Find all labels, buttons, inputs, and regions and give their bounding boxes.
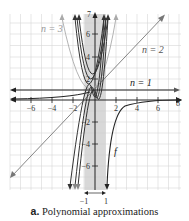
svg-text:7: 7 bbox=[87, 10, 91, 19]
label-n1: n = 1 bbox=[130, 77, 152, 88]
n3-arrow-right-icon bbox=[114, 14, 119, 20]
figure-caption: a. Polynomial approximations bbox=[0, 205, 189, 217]
svg-text:−4: −4 bbox=[48, 104, 57, 113]
caption-letter: a. bbox=[31, 205, 40, 217]
n3-arrow-left-icon bbox=[60, 14, 65, 20]
svg-text:4: 4 bbox=[135, 104, 139, 113]
svg-text:4: 4 bbox=[86, 53, 90, 62]
label-n2: n = 2 bbox=[142, 44, 164, 55]
svg-text:6: 6 bbox=[86, 30, 90, 39]
label-f: f bbox=[114, 146, 118, 157]
svg-text:6: 6 bbox=[156, 104, 160, 113]
svg-text:−6: −6 bbox=[81, 162, 90, 171]
caption-text: Polynomial approximations bbox=[42, 206, 158, 217]
svg-text:−6: −6 bbox=[27, 104, 36, 113]
svg-text:2: 2 bbox=[114, 104, 118, 113]
interval-indicator: −1 1 bbox=[80, 191, 108, 206]
label-n3: n = 3 bbox=[41, 23, 63, 34]
chart-figure: −6 −4 −2 2 4 6 8 2 4 6 7 −2 −4 −6 bbox=[0, 0, 189, 221]
